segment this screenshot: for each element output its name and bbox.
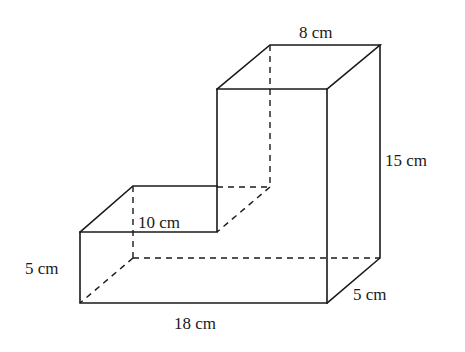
label-depth: 5 cm <box>353 285 387 304</box>
tall-block-top-face <box>217 45 380 89</box>
label-right-height: 15 cm <box>385 151 427 170</box>
label-bottom-length: 18 cm <box>174 314 216 333</box>
front-face <box>80 89 327 303</box>
l-shaped-prism-diagram: 8 cm 15 cm 10 cm 5 cm 18 cm 5 cm <box>0 0 465 352</box>
hidden-bottom-depth-edge <box>80 258 133 303</box>
visible-edges <box>80 45 380 303</box>
label-top-width: 8 cm <box>299 23 333 42</box>
label-left-height: 5 cm <box>25 259 59 278</box>
hidden-edges <box>80 45 380 303</box>
hidden-step-depth-edge <box>217 187 270 232</box>
right-side-face <box>327 45 380 303</box>
label-step-length: 10 cm <box>138 213 180 232</box>
